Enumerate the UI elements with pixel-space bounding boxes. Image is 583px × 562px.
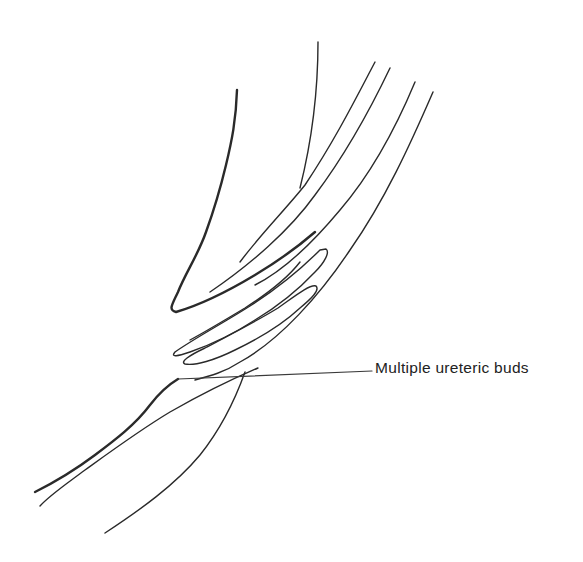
outer-tube-line-1 [255, 82, 415, 285]
ureteric-bud-1 [173, 249, 327, 356]
ureteric-bud-drawing [0, 0, 583, 562]
left-wall-outline [172, 90, 315, 312]
lower-left-thick-outline [35, 379, 178, 492]
ureteric-bud-2 [184, 286, 318, 365]
inner-tube-line-1 [240, 62, 375, 262]
lower-right-curve [105, 372, 245, 533]
drawing-lines [35, 42, 433, 533]
annotation-label: Multiple ureteric buds [375, 359, 529, 377]
annotation-leader-line [178, 371, 372, 379]
outer-tube-line-2 [195, 92, 433, 380]
central-septum-line [300, 42, 318, 188]
lower-middle-line [40, 368, 258, 506]
